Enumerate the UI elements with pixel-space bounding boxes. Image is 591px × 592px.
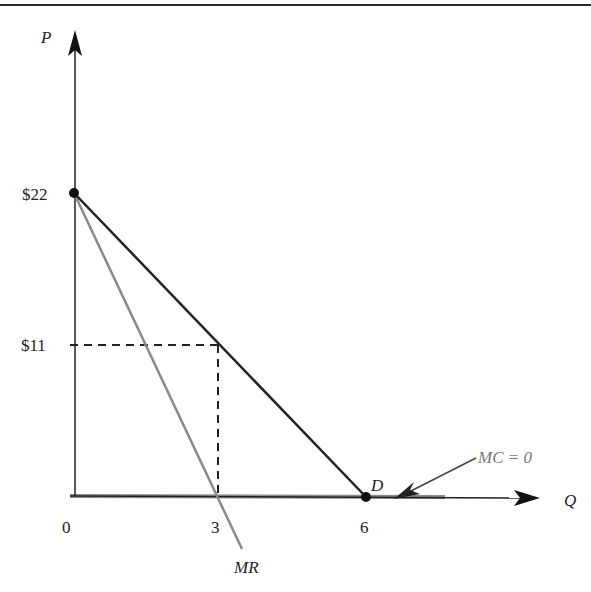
monopoly-chart: P Q $22 $11 0 3 6 D MR MC = 0 xyxy=(0,0,591,592)
x-tick-3: 3 xyxy=(211,518,220,537)
mc-label: MC = 0 xyxy=(477,448,532,467)
y-tick-11: $11 xyxy=(21,336,46,355)
y-tick-22: $22 xyxy=(22,185,48,204)
demand-q-intercept-point xyxy=(361,492,371,502)
mc-annotation-arrow xyxy=(405,458,476,494)
x-axis-label: Q xyxy=(564,491,576,510)
demand-label: D xyxy=(370,476,384,495)
x-tick-6: 6 xyxy=(360,518,369,537)
mr-label: MR xyxy=(233,558,259,577)
y-axis-label: P xyxy=(40,28,51,47)
x-tick-0: 0 xyxy=(62,518,71,537)
intercept-point xyxy=(69,188,79,198)
